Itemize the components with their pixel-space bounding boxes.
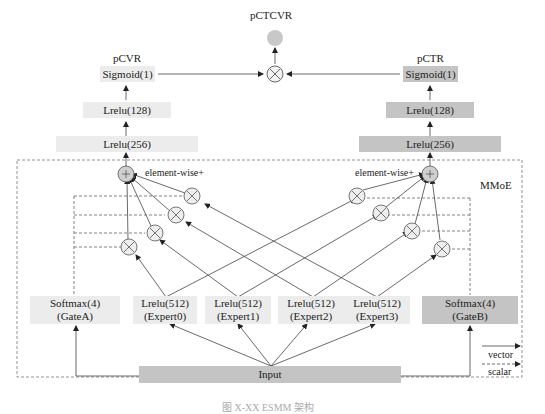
expert3-line1: Lrelu(512)	[353, 297, 401, 310]
pctcvr-output-node	[267, 30, 283, 46]
pcvr-label: pCVR	[113, 52, 141, 64]
expert2-box: Lrelu(512) (Expert2)	[278, 296, 344, 324]
expert1-line2: (Expert1)	[217, 310, 259, 323]
left-lrelu256-label: Lrelu(256)	[103, 138, 151, 151]
expert0-box: Lrelu(512) (Expert0)	[133, 296, 197, 324]
mmoe-label: MMoE	[480, 179, 512, 191]
gate-a-line1: Softmax(4)	[50, 297, 100, 310]
left-multiply-nodes	[121, 188, 200, 255]
expert1-line1: Lrelu(512)	[214, 297, 262, 310]
right-sigmoid-label: Sigmoid(1)	[405, 68, 455, 81]
legend-scalar-label: scalar	[488, 366, 511, 377]
figure-caption: 图 X-XX ESMM 架构	[222, 399, 314, 414]
left-lrelu128-label: Lrelu(128)	[103, 104, 151, 117]
right-lrelu128-box: Lrelu(128)	[386, 102, 474, 118]
left-sigmoid-label: Sigmoid(1)	[102, 68, 152, 81]
right-lrelu256-label: Lrelu(256)	[406, 138, 454, 151]
left-lrelu256-box: Lrelu(256)	[56, 136, 198, 152]
pctr-label: pCTR	[417, 52, 444, 64]
right-sum-lines	[363, 174, 440, 240]
expert3-line2: (Expert3)	[356, 310, 398, 323]
gate-b-line2: (GateB)	[452, 310, 487, 323]
expert2-line2: (Expert2)	[290, 310, 332, 323]
gate-a-line2: (GateA)	[57, 310, 93, 323]
right-sigmoid-box: Sigmoid(1)	[403, 66, 458, 82]
expert-to-right-multiply-lines	[166, 199, 436, 297]
input-label: Input	[258, 368, 281, 381]
expert1-box: Lrelu(512) (Expert1)	[205, 296, 271, 324]
expert2-line1: Lrelu(512)	[287, 297, 335, 310]
input-box: Input	[139, 366, 401, 383]
expert0-line2: (Expert0)	[144, 310, 186, 323]
expert3-box: Lrelu(512) (Expert3)	[344, 296, 410, 324]
left-lrelu128-box: Lrelu(128)	[83, 102, 171, 118]
right-lrelu256-box: Lrelu(256)	[359, 136, 501, 152]
gate-a-box: Softmax(4) (GateA)	[30, 296, 120, 324]
right-lrelu128-label: Lrelu(128)	[406, 104, 454, 117]
gate-b-box: Softmax(4) (GateB)	[422, 296, 518, 324]
element-wise-right-label: element-wise+	[355, 167, 414, 178]
element-wise-left-label: element-wise+	[145, 167, 204, 178]
pctcvr-label: pCTCVR	[250, 9, 292, 21]
gate-b-line1: Softmax(4)	[445, 297, 495, 310]
mmoe-region	[17, 160, 522, 377]
expert0-line1: Lrelu(512)	[141, 297, 189, 310]
legend-vector-label: vector	[488, 349, 513, 360]
left-sigmoid-box: Sigmoid(1)	[100, 66, 155, 82]
